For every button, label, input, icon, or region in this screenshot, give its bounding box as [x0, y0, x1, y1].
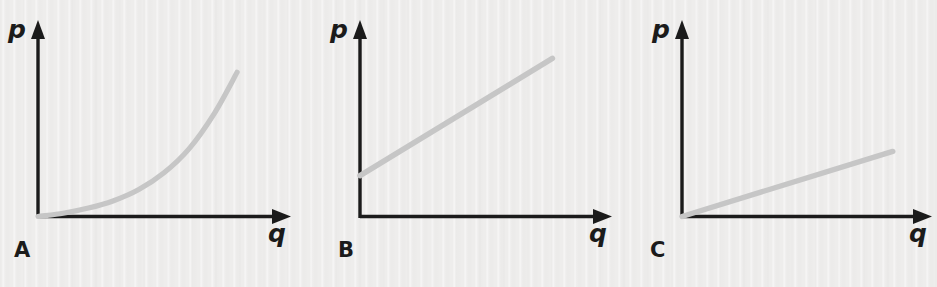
panel-b-letter: B [338, 240, 354, 261]
panel-b-x-axis-label: q [589, 221, 607, 246]
panel-a-y-axis-label: p [8, 17, 26, 42]
panel-a-letter: A [14, 240, 30, 261]
panel-b-plot [312, 0, 624, 287]
panel-b-line [360, 58, 552, 175]
panel-c-y-axis-arrowhead [675, 20, 689, 39]
panel-c-letter: C [650, 240, 665, 261]
panel-c-line [682, 151, 893, 216]
panel-b-y-axis-label: p [330, 17, 348, 42]
panel-a-curve [38, 72, 237, 216]
panel-c-y-axis-label: p [652, 17, 670, 42]
panel-c-plot [624, 0, 937, 287]
panel-c: p q C [624, 0, 937, 287]
panel-b-y-axis-arrowhead [353, 20, 367, 39]
panel-b: p q B [312, 0, 624, 287]
panel-a-plot [0, 0, 312, 287]
panel-a-x-axis-label: q [268, 221, 286, 246]
panel-a: p q A [0, 0, 312, 287]
panel-a-y-axis-arrowhead [31, 20, 45, 39]
panel-c-x-axis-label: q [909, 221, 927, 246]
three-panel-price-quantity-figure: p q A p q B p q [0, 0, 937, 287]
